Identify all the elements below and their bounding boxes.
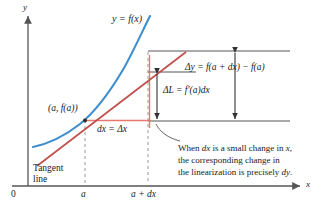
delta-L-label: ΔL = f′(a)dx bbox=[163, 85, 210, 97]
caption-line-3: the linearization is precisely dy. bbox=[178, 167, 292, 178]
caption-l1-a: When bbox=[178, 143, 202, 153]
caption-l3-dy: dy bbox=[281, 167, 290, 177]
tangency-point-label: (a, f(a)) bbox=[48, 103, 78, 115]
figure-canvas: y x 0 a a + dx y = f(x) (a, f(a)) dx = Δ… bbox=[0, 0, 321, 219]
caption-l1-dx: dx bbox=[202, 143, 211, 153]
y-axis-label: y bbox=[23, 2, 27, 13]
tangent-line-label-1: Tangent bbox=[33, 163, 63, 175]
caption-leader-line bbox=[156, 124, 180, 141]
origin-label: 0 bbox=[11, 189, 16, 201]
dx-label: dx = Δx bbox=[97, 124, 127, 136]
caption-l1-e: , bbox=[290, 143, 292, 153]
delta-y-label: Δy = f(a + dx) − f(a) bbox=[185, 62, 265, 74]
x-tick-a: a bbox=[81, 189, 86, 201]
curve-label: y = f(x) bbox=[112, 13, 142, 25]
caption-l1-c: is a small change in bbox=[210, 143, 285, 153]
caption-l3-c: . bbox=[290, 167, 292, 177]
x-axis-label: x bbox=[306, 179, 310, 190]
x-tick-a-plus-dx: a + dx bbox=[131, 189, 156, 201]
caption-line-2: the corresponding change in bbox=[178, 155, 280, 166]
tangency-point-marker bbox=[83, 119, 87, 123]
tangent-line-label-2: line bbox=[33, 174, 47, 186]
caption-l3-a: the linearization is precisely bbox=[178, 167, 281, 177]
function-curve bbox=[33, 16, 150, 147]
caption-line-1: When dx is a small change in x, bbox=[178, 143, 292, 154]
